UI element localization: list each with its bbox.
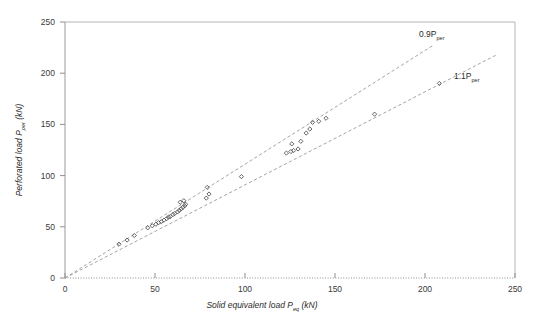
x-ticklabel-200: 200 (418, 284, 432, 294)
data-point-layer (117, 81, 442, 246)
data-point-marker (310, 120, 314, 124)
y-ticklabel-50: 50 (46, 222, 56, 232)
reference-line-labels: 0.9Pper 1.1Pper (419, 29, 480, 83)
reference-lines (65, 45, 497, 278)
x-ticklabel-50: 50 (150, 284, 160, 294)
y-axis: 0 50 100 150 200 250 Perforated load Ppe… (14, 17, 65, 283)
upper-bound-label-main: 0.9P (419, 29, 437, 39)
data-point-marker (284, 151, 288, 155)
lower-bound-label-main: 1.1P (454, 71, 472, 81)
data-point-marker (290, 142, 294, 146)
lower-bound-label-sub: per (472, 77, 480, 83)
y-axis-ticks (60, 22, 65, 278)
x-axis: 0 50 100 150 200 250 Solid equivalent lo… (63, 273, 523, 312)
data-point-marker (373, 112, 377, 116)
data-point-marker (308, 127, 312, 131)
data-point-marker (207, 192, 211, 196)
x-axis-ticks (65, 273, 515, 278)
x-axis-title: Solid equivalent load Peq (kN) (206, 300, 317, 312)
lower-bound-line (65, 55, 497, 278)
data-point-marker (162, 218, 166, 222)
y-axis-title-group: Perforated load Pper (kN) (14, 103, 26, 196)
data-point-marker (304, 131, 308, 135)
data-point-marker (299, 139, 303, 143)
x-ticklabel-250: 250 (508, 284, 522, 294)
x-ticklabel-0: 0 (63, 284, 68, 294)
data-point-marker (317, 119, 321, 123)
figure-container: 0 50 100 150 200 250 Perforated load Ppe… (0, 0, 545, 318)
y-ticklabel-0: 0 (50, 273, 55, 283)
x-axis-title-unit: (kN) (302, 300, 318, 310)
x-ticklabel-150: 150 (328, 284, 342, 294)
data-point-marker (204, 196, 208, 200)
y-ticklabel-100: 100 (41, 171, 55, 181)
y-axis-title: Perforated load Pper (kN) (14, 103, 26, 196)
y-axis-title-unit-text: (kN) (14, 103, 24, 119)
x-axis-tick-labels: 0 50 100 150 200 250 (63, 284, 523, 294)
scatter-chart: 0 50 100 150 200 250 Perforated load Ppe… (0, 0, 545, 318)
y-ticklabel-150: 150 (41, 119, 55, 129)
data-point-marker (437, 81, 441, 85)
upper-bound-label-sub: per (437, 35, 445, 41)
y-axis-title-main: Perforated load P (14, 130, 24, 196)
data-point-marker (296, 147, 300, 151)
y-ticklabel-200: 200 (41, 68, 55, 78)
lower-bound-label: 1.1Pper (454, 71, 480, 83)
x-axis-title-main: Solid equivalent load P (206, 300, 293, 310)
data-point-marker (239, 175, 243, 179)
y-ticklabel-250: 250 (41, 17, 55, 27)
data-point-marker (324, 116, 328, 120)
y-axis-tick-labels: 0 50 100 150 200 250 (41, 17, 55, 283)
upper-bound-label: 0.9Pper (419, 29, 445, 41)
x-ticklabel-100: 100 (238, 284, 252, 294)
